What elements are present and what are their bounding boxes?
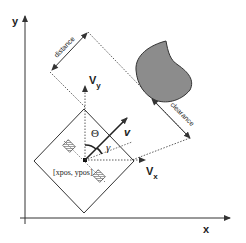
- vy-label: Vy: [89, 74, 101, 90]
- angle-markers: Θ γ: [85, 127, 111, 154]
- gamma-label: γ: [106, 141, 111, 153]
- clearance-label: clearance: [169, 101, 195, 127]
- robot-kinematics-diagram: y x distance clearance [xpos, ypos] Vy V…: [0, 0, 246, 243]
- v-label: v: [124, 126, 131, 138]
- vx-label: Vx: [146, 165, 158, 181]
- y-axis-label: y: [12, 15, 19, 27]
- robot-position-label: [xpos, ypos]: [53, 168, 93, 177]
- theta-arc: [85, 145, 96, 149]
- obstacle-shape: [136, 41, 192, 102]
- v-vector: [85, 118, 127, 160]
- gamma-arc: [97, 148, 102, 154]
- distance-rect-left: [50, 72, 85, 107]
- distance-rect-right: [132, 138, 190, 160]
- robot: [xpos, ypos]: [34, 109, 134, 213]
- x-axis-label: x: [203, 223, 210, 235]
- distance-label: distance: [53, 35, 76, 59]
- theta-label: Θ: [91, 127, 99, 139]
